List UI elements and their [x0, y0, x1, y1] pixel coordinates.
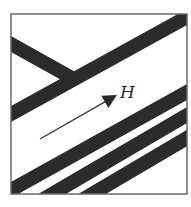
field-label-h: H — [119, 82, 136, 102]
arrowhead-icon — [101, 95, 117, 108]
domain-stripes — [0, 3, 191, 207]
magnetic-domain-diagram: H — [0, 0, 191, 207]
